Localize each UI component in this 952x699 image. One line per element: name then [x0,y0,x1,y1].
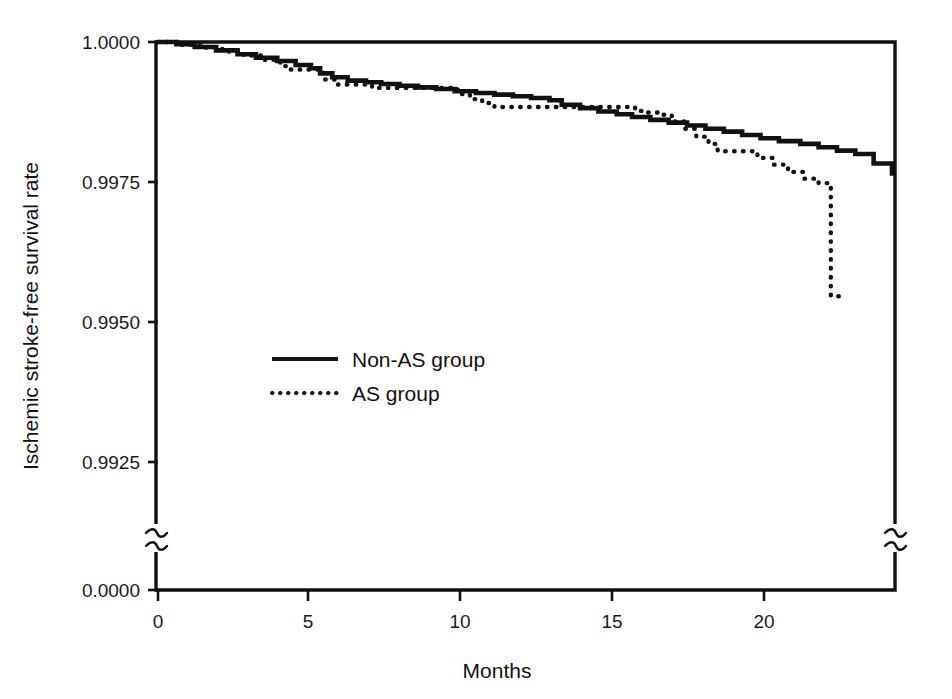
x-tick-label-4: 20 [753,611,774,632]
y-tick-label-0: 1.0000 [82,32,140,53]
x-axis-tick-labels: 0 5 10 15 20 [153,611,775,632]
x-axis-title: Months [463,659,532,682]
legend-label-non-as-group: Non-AS group [352,348,485,371]
chart-legend: Non-AS group AS group [272,348,485,405]
y-tick-label-4: 0.0000 [82,580,140,601]
x-tick-label-1: 5 [303,611,314,632]
y-axis-break-left [146,524,167,552]
plot-frame [156,42,895,590]
y-axis-tick-labels: 1.0000 0.9975 0.9950 0.9925 0.0000 [82,32,140,601]
y-tick-label-3: 0.9925 [82,452,140,473]
chart-figure: 1.0000 0.9975 0.9950 0.9925 0.0000 0 5 1… [0,0,952,699]
y-axis-break-right [885,524,906,552]
x-tick-label-3: 15 [601,611,622,632]
y-tick-label-2: 0.9950 [82,312,140,333]
legend-label-as-group: AS group [352,382,440,405]
series-line-non-as-group [158,42,892,176]
survival-chart-svg: 1.0000 0.9975 0.9950 0.9925 0.0000 0 5 1… [0,0,952,699]
y-tick-label-1: 0.9975 [82,172,140,193]
x-tick-label-0: 0 [153,611,164,632]
y-axis-title: Ischemic stroke-free survival rate [19,162,42,470]
x-tick-label-2: 10 [449,611,470,632]
series-line-as-group [158,42,840,296]
